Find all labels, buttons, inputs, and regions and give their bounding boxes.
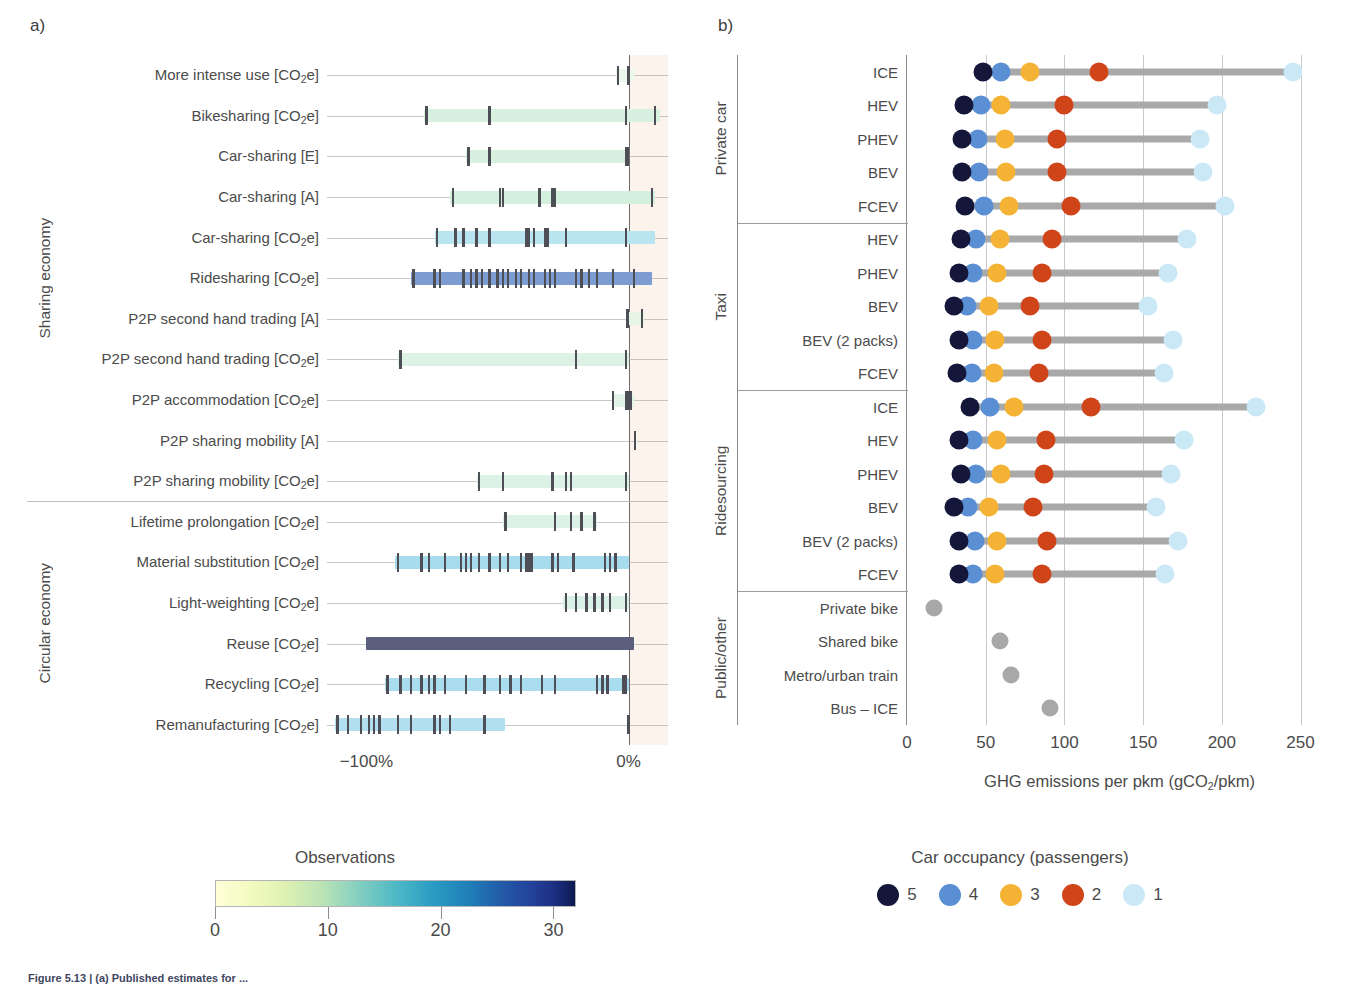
panel-b-x-tick: 250 bbox=[1286, 733, 1314, 753]
occupancy-dot-3 bbox=[995, 129, 1014, 148]
occupancy-dot-3 bbox=[992, 464, 1011, 483]
colorbar-tick-mark bbox=[215, 907, 216, 919]
colorbar-tick-label: 30 bbox=[543, 920, 563, 941]
panel-a-plot-area bbox=[327, 55, 668, 745]
panel-a-row-label: Material substitution [CO2e] bbox=[39, 554, 319, 574]
occupancy-dot-4 bbox=[981, 397, 1000, 416]
occupancy-dot-5 bbox=[960, 397, 979, 416]
occupancy-legend-swatch bbox=[1000, 884, 1022, 906]
observation-tick bbox=[428, 553, 430, 572]
observation-tick bbox=[502, 269, 504, 288]
observation-tick bbox=[596, 675, 598, 694]
observation-tick bbox=[651, 188, 653, 207]
occupancy-dot-3 bbox=[987, 431, 1006, 450]
panel-a-row-label: Recycling [CO2e] bbox=[39, 676, 319, 696]
observation-tick bbox=[601, 675, 603, 694]
panel-b-group-separator bbox=[738, 223, 908, 224]
panel-a-group-label: Circular economy bbox=[36, 501, 54, 745]
observation-tick bbox=[575, 350, 577, 369]
observation-tick bbox=[444, 675, 446, 694]
occupancy-dot-3 bbox=[990, 230, 1009, 249]
occupancy-legend-item: 3 bbox=[1000, 884, 1039, 906]
occupancy-dot-4 bbox=[970, 163, 989, 182]
occupancy-dot-3 bbox=[997, 163, 1016, 182]
occupancy-dot-1 bbox=[1159, 263, 1178, 282]
panel-a-row-label: Ridesharing [CO2e] bbox=[39, 270, 319, 290]
observation-tick bbox=[554, 675, 556, 694]
panel-b-group-label: Taxi bbox=[712, 223, 730, 391]
panel-a-row-label: Car-sharing [A] bbox=[39, 189, 319, 204]
colorbar-tick-mark bbox=[553, 907, 554, 919]
occupancy-dot-1 bbox=[1156, 565, 1175, 584]
panel-b-row-label: Metro/urban train bbox=[784, 666, 898, 683]
occupancy-dot-1 bbox=[1208, 96, 1227, 115]
observation-tick bbox=[625, 106, 627, 125]
observation-tick bbox=[544, 269, 546, 288]
observation-tick bbox=[336, 715, 338, 734]
panel-a-row-label: P2P accommodation [CO2e] bbox=[39, 392, 319, 412]
observation-tick bbox=[588, 269, 590, 288]
occupancy-dot-2 bbox=[1033, 330, 1052, 349]
occupancy-dot-3 bbox=[979, 297, 998, 316]
occupancy-dot-1 bbox=[1247, 397, 1266, 416]
observation-tick bbox=[575, 593, 577, 612]
group-separator bbox=[27, 501, 668, 502]
panel-a-row-label: P2P sharing mobility [CO2e] bbox=[39, 473, 319, 493]
panel-a-row-label: Car-sharing [CO2e] bbox=[39, 230, 319, 250]
observation-tick bbox=[386, 675, 388, 694]
panel-b-row-label: HEV bbox=[867, 97, 898, 114]
observation-tick bbox=[475, 228, 477, 247]
range-bar bbox=[563, 596, 629, 609]
panel-b-row-label: PHEV bbox=[857, 465, 898, 482]
observation-tick bbox=[633, 269, 635, 288]
observation-tick bbox=[626, 309, 628, 328]
panel-a-row-label: More intense use [CO2e] bbox=[39, 67, 319, 87]
occupancy-dot-1 bbox=[1190, 129, 1209, 148]
panel-b-gridline bbox=[1143, 55, 1144, 725]
occupancy-dot-5 bbox=[973, 62, 992, 81]
observation-tick bbox=[397, 553, 399, 572]
observation-tick bbox=[520, 553, 522, 572]
panel-b-row-label: Shared bike bbox=[818, 633, 898, 650]
panel-b-x-tick: 150 bbox=[1129, 733, 1157, 753]
observation-tick bbox=[530, 553, 532, 572]
observation-tick bbox=[488, 553, 490, 572]
observation-tick bbox=[626, 147, 628, 166]
occupancy-dot-1 bbox=[1164, 330, 1183, 349]
observation-tick bbox=[488, 106, 490, 125]
observation-tick bbox=[425, 106, 427, 125]
occupancy-legend-label: 5 bbox=[907, 885, 916, 905]
occupancy-legend-label: 4 bbox=[969, 885, 978, 905]
panel-b-group-axis: Private carTaxiRidesourcingPublic/other bbox=[712, 55, 730, 725]
observation-tick bbox=[496, 269, 498, 288]
panel-a-x-tick: 0% bbox=[616, 752, 641, 772]
occupancy-legend-label: 3 bbox=[1030, 885, 1039, 905]
panel-a-row-label: Lifetime prolongation [CO2e] bbox=[39, 514, 319, 534]
panel-b-x-tick: 50 bbox=[976, 733, 995, 753]
occupancy-dot-5 bbox=[951, 464, 970, 483]
observation-tick bbox=[488, 269, 490, 288]
occupancy-legend-swatch bbox=[1062, 884, 1084, 906]
occupancy-dot-2 bbox=[1090, 62, 1109, 81]
observation-tick bbox=[625, 593, 627, 612]
observation-tick bbox=[546, 228, 548, 247]
observation-tick bbox=[467, 147, 469, 166]
observation-tick bbox=[625, 228, 627, 247]
observation-tick bbox=[634, 431, 636, 450]
occupancy-dot-4 bbox=[992, 62, 1011, 81]
panel-a-row-label: P2P second hand trading [A] bbox=[39, 311, 319, 326]
occupancy-dot-1 bbox=[1215, 196, 1234, 215]
occupancy-dot-5 bbox=[949, 531, 968, 550]
occupancy-dot-2 bbox=[1038, 531, 1057, 550]
panel-b-gridline bbox=[986, 55, 987, 725]
observation-tick bbox=[625, 350, 627, 369]
figure-caption: Figure 5.13 | (a) Published estimates fo… bbox=[28, 972, 1328, 984]
observation-tick bbox=[488, 147, 490, 166]
panel-b-row-label: BEV (2 packs) bbox=[802, 532, 898, 549]
public-mode-dot bbox=[1002, 666, 1019, 683]
occupancy-legend-item: 2 bbox=[1062, 884, 1101, 906]
panel-b-row-label: FCEV bbox=[858, 365, 898, 382]
observation-tick bbox=[465, 553, 467, 572]
observation-tick bbox=[515, 269, 517, 288]
observation-tick bbox=[580, 269, 582, 288]
